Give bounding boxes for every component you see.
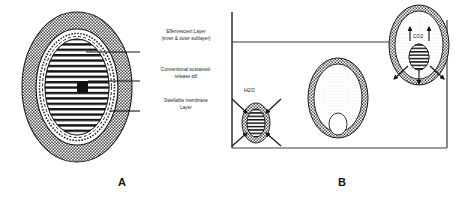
residual-pill-core	[329, 113, 347, 135]
tablet-stage-swollen	[308, 58, 368, 138]
tablet-stage-floating	[389, 5, 449, 85]
core-marker-block	[77, 82, 88, 93]
label-pill-line1: Conventional sustained-	[142, 66, 230, 73]
label-swellable-membrane-layer: Swellable membrane Layer	[142, 97, 230, 111]
figure-container: Effervescent Layer (inner & outer sublay…	[0, 0, 468, 206]
label-effervescent-line2: (inner & outer sublayer)	[142, 35, 230, 42]
panel-a-caption: A	[118, 176, 126, 188]
panel-b-drawing: H2O	[228, 0, 468, 206]
label-pill-line2: release pill	[142, 73, 230, 80]
label-swellable-line1: Swellable membrane	[142, 97, 230, 104]
label-effervescent-line1: Effervescent Layer	[142, 28, 230, 35]
annotation-h2o: H2O	[244, 87, 255, 93]
panel-b: H2O	[228, 0, 468, 206]
panel-b-caption: B	[338, 176, 346, 188]
label-swellable-line2: Layer	[142, 104, 230, 111]
tablet-stage-water-uptake	[232, 99, 281, 146]
panel-a: Effervescent Layer (inner & outer sublay…	[0, 0, 234, 206]
label-sustained-release-pill: Conventional sustained- release pill	[142, 66, 230, 80]
label-effervescent-layer: Effervescent Layer (inner & outer sublay…	[142, 28, 230, 42]
annotation-co2: CO2	[413, 33, 424, 39]
